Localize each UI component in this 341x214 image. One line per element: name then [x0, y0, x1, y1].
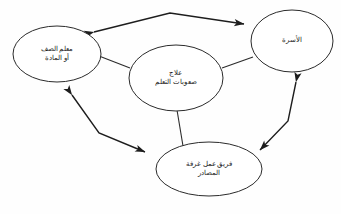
node-resource-room-shape[interactable]: [156, 142, 262, 196]
family-resource-connector: [260, 82, 296, 150]
treatment-family-connector: [222, 57, 253, 68]
treatment-resource-connector: [177, 110, 183, 146]
treatment-teacher-connector: [99, 56, 130, 68]
node-treatment-shape[interactable]: [129, 45, 223, 111]
teacher-resource-connector: [72, 95, 145, 152]
teacher-family-connector: [94, 13, 244, 32]
diagram-svg: [0, 0, 341, 214]
node-teacher-shape[interactable]: [13, 26, 101, 82]
node-family-shape[interactable]: [251, 10, 333, 72]
diagram-canvas: معلم الصف أو المادة علاج صعوبات التعلم ا…: [0, 0, 341, 214]
